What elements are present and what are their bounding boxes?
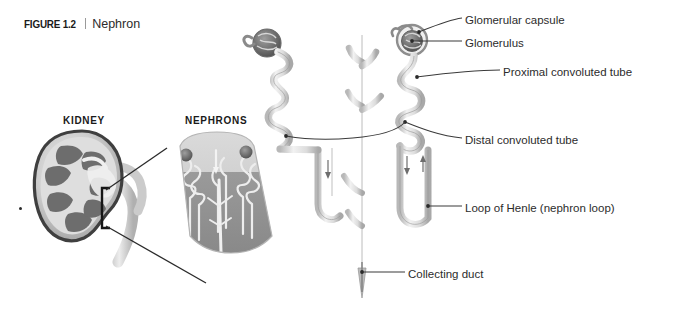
wedge-glomerulus-right — [240, 146, 253, 159]
figure-nephron: FIGURE 1.2 Nephron KIDNEY NEPHRONS Glome… — [0, 0, 674, 318]
nephron-right-proximal-tubule — [399, 56, 422, 151]
leader-distal-left-branch — [286, 122, 405, 139]
leader-anchor-distal-left — [284, 134, 288, 138]
nephron-left-connector — [280, 149, 318, 150]
collecting-duct-group — [344, 35, 381, 298]
nephron-right — [392, 25, 428, 224]
leader-lines — [362, 18, 500, 272]
leader-glomerular-capsule — [419, 18, 462, 32]
kidney-cross-section — [34, 131, 142, 262]
nephron-right-glomerulus — [392, 25, 427, 55]
leader-proximal-convoluted-tube — [417, 70, 500, 77]
leader-lines-secondary — [286, 122, 405, 139]
nephron-illustration — [0, 0, 674, 318]
leader-anchor-dots — [360, 30, 430, 274]
wedge-collecting-duct — [219, 180, 221, 252]
nephrons-wedge — [170, 132, 290, 267]
